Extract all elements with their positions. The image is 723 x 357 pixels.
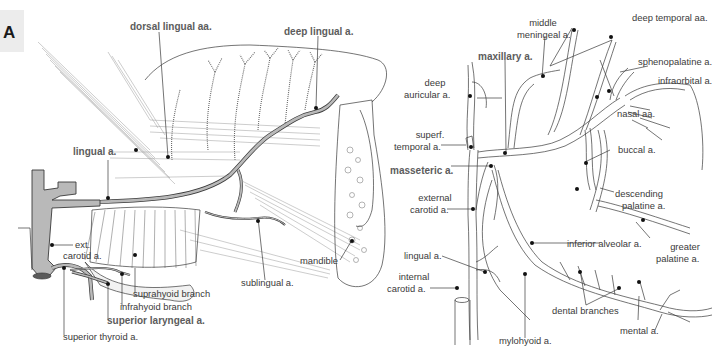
label-ext-carotid-line2: carotid a. (63, 250, 102, 261)
label-lingual-artery-right: lingual a. (404, 250, 442, 261)
label-external-carotid-line2: carotid a. (410, 204, 449, 215)
label-mylohyoid-artery: mylohyoid a. (499, 335, 552, 346)
label-dental-branches: dental branches (552, 305, 619, 316)
label-infrahyoid-branch: infrahyoid branch (120, 301, 192, 312)
label-greater-palatine-line2: palatine a. (656, 253, 699, 264)
label-sublingual-artery: sublingual a. (241, 277, 294, 288)
label-internal-carotid-line1: internal (384, 271, 444, 282)
label-internal-carotid-line2: carotid a. (387, 283, 426, 294)
label-mandible: mandible (300, 255, 338, 266)
label-external-carotid-line1: external (410, 192, 460, 203)
styloglossus-muscle-fibers (38, 42, 320, 184)
label-superior-laryngeal-artery: superior laryngeal a. (107, 315, 205, 326)
label-nasal-arteries: nasal aa. (617, 108, 655, 119)
tongue-outline (145, 45, 387, 102)
mandible-trabeculae (345, 147, 367, 263)
label-middle-meningeal-line2: meningeal a. (517, 29, 571, 40)
label-buccal-artery: buccal a. (618, 144, 656, 155)
dorsal-vessel-branches (172, 48, 322, 160)
label-superf-temporal-line1: superf. (400, 129, 460, 140)
label-superior-thyroid-artery: superior thyroid a. (63, 331, 138, 342)
label-deep-auricular-line1: deep (410, 77, 460, 88)
label-descending-palatine-line2: palatine a. (622, 200, 665, 211)
label-deep-lingual-artery: deep lingual a. (284, 26, 353, 37)
leader-dots (50, 28, 645, 290)
label-maxillary-artery: maxillary a. (478, 51, 532, 62)
label-inferior-alveolar-artery: inferior alveolar a. (567, 238, 642, 249)
label-sphenopalatine-artery: sphenopalatine a. (638, 56, 712, 67)
label-suprahyoid-branch: suprahyoid branch (133, 288, 210, 299)
label-greater-palatine-line1: greater (660, 241, 710, 252)
label-superf-temporal-line2: temporal a. (394, 141, 441, 152)
label-infraorbital-artery: infraorbital a. (658, 75, 712, 86)
label-deep-auricular-line2: auricular a. (404, 89, 450, 100)
label-middle-meningeal-line1: middle (518, 17, 568, 28)
label-lingual-artery: lingual a. (73, 146, 116, 157)
label-mental-artery: mental a. (620, 325, 659, 336)
mandible-section (335, 100, 385, 287)
label-deep-temporal-arteries: deep temporal aa. (632, 12, 708, 23)
label-masseteric-artery: masseteric a. (390, 165, 453, 176)
anatomy-illustration (0, 0, 723, 357)
label-descending-palatine-line1: descending (615, 188, 663, 199)
label-dorsal-lingual-arteries: dorsal lingual aa. (130, 21, 212, 32)
label-ext-carotid-line1: ext. (75, 239, 90, 250)
carotid-cut-end (33, 273, 51, 279)
hyoglossus-vertical-fibers (85, 210, 196, 268)
